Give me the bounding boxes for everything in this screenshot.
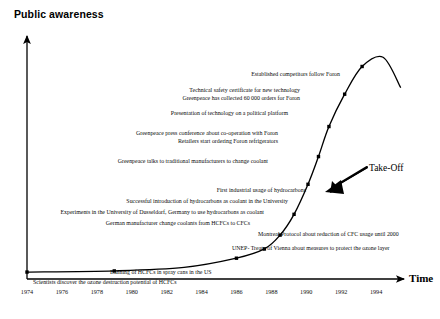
event-label: Presentation of technology on a politica… <box>171 111 288 117</box>
event-label: Successful introduction of hydrocarbons … <box>126 199 288 205</box>
x-tick-label: 1994 <box>370 288 382 295</box>
data-point-marker <box>306 183 309 186</box>
event-label: Scientists discover the ozone destructio… <box>33 280 176 286</box>
data-point-marker <box>292 213 295 216</box>
data-point-marker <box>235 257 238 260</box>
data-point-marker <box>360 65 363 68</box>
take-off-label: Take-Off <box>369 163 404 173</box>
x-tick-label: 1980 <box>126 288 138 295</box>
data-point-marker <box>343 93 346 96</box>
event-label: Montreal Protocol about reduction of CFC… <box>258 232 399 238</box>
event-label: UNEP- Treaty of Vienna about measures to… <box>232 246 390 252</box>
event-label: Greenpeace has collected 60 000 orders f… <box>182 96 300 102</box>
x-tick-label: 1978 <box>91 288 103 295</box>
x-tick-label: 1982 <box>160 288 172 295</box>
chart-canvas: Public awareness Time Take-Off 197419761… <box>0 0 440 319</box>
take-off-arrow <box>325 167 368 194</box>
event-label: Greenpeace talks to traditional manufact… <box>118 159 268 165</box>
event-label: Established competitors follow Foron <box>251 72 340 78</box>
event-label: Banning of HCFCs in spray cans in the US <box>110 270 211 276</box>
x-tick-label: 1986 <box>230 288 242 295</box>
event-label: Technical safety certificate for new tec… <box>189 88 300 94</box>
x-tick-label: 1974 <box>21 288 33 295</box>
data-point-marker <box>317 155 320 158</box>
event-label: Experiments in the University of Dusseld… <box>60 210 264 216</box>
event-label: First industrial usage of hydrocarbons <box>217 188 306 194</box>
x-tick-label: 1990 <box>300 288 312 295</box>
event-label: Retailers start ordering Foron refrigera… <box>178 139 278 145</box>
data-point-marker <box>327 125 330 128</box>
x-tick-label: 1976 <box>56 288 68 295</box>
x-tick-label: 1992 <box>335 288 347 295</box>
data-point-marker <box>25 270 28 273</box>
event-label: German manufacturer change coolants from… <box>106 221 250 227</box>
x-tick-label: 1984 <box>195 288 207 295</box>
event-label: Greenpeace press conference about co-ope… <box>136 131 278 137</box>
x-tick-label: 1988 <box>265 288 277 295</box>
